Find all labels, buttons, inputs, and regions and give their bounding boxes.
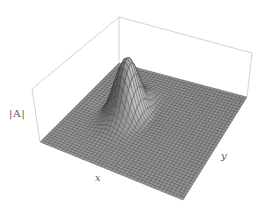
y-axis-label: y xyxy=(221,150,227,161)
surface-plot xyxy=(0,0,261,211)
x-axis-label: x xyxy=(95,172,101,183)
surface-mesh xyxy=(40,57,247,200)
z-axis-label: |A| xyxy=(9,108,26,119)
